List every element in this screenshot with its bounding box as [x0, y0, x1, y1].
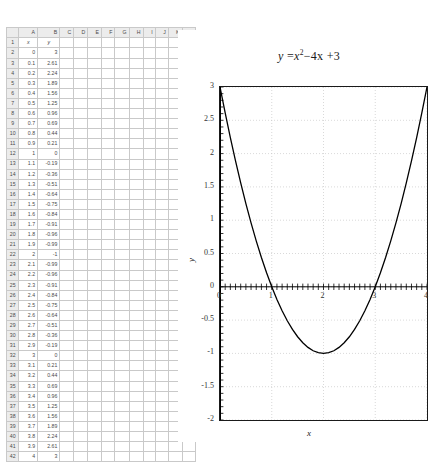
cell-empty[interactable]: [60, 220, 74, 230]
cell-empty[interactable]: [155, 38, 168, 48]
cell-empty[interactable]: [101, 300, 115, 310]
cell-empty[interactable]: [143, 341, 155, 351]
cell-empty[interactable]: [74, 250, 88, 260]
cell-empty[interactable]: [129, 209, 143, 219]
cell-empty[interactable]: [155, 371, 168, 381]
cell-x-41[interactable]: 3.9: [19, 442, 38, 452]
cell-x-39[interactable]: 3.7: [19, 421, 38, 431]
cell-empty[interactable]: [129, 290, 143, 300]
row-header-26[interactable]: 26: [7, 290, 19, 300]
cell-empty[interactable]: [60, 169, 74, 179]
cell-empty[interactable]: [155, 230, 168, 240]
cell-empty[interactable]: [60, 48, 74, 58]
cell-empty[interactable]: [155, 421, 168, 431]
cell-empty[interactable]: [60, 189, 74, 199]
cell-y-13[interactable]: -0.19: [38, 159, 60, 169]
cell-empty[interactable]: [60, 442, 74, 452]
cell-y-23[interactable]: -0.99: [38, 260, 60, 270]
cell-y-31[interactable]: -0.19: [38, 341, 60, 351]
cell-empty[interactable]: [101, 139, 115, 149]
row-header-29[interactable]: 29: [7, 321, 19, 331]
cell-empty[interactable]: [88, 452, 102, 462]
table-row[interactable]: 383.61.56: [7, 411, 196, 421]
table-row[interactable]: 252.3-0.91: [7, 280, 196, 290]
cell-x-24[interactable]: 2.2: [19, 270, 38, 280]
table-row[interactable]: 222-1: [7, 250, 196, 260]
cell-empty[interactable]: [115, 432, 129, 442]
cell-empty[interactable]: [74, 421, 88, 431]
cell-empty[interactable]: [155, 300, 168, 310]
table-row[interactable]: 161.4-0.64: [7, 189, 196, 199]
cell-empty[interactable]: [143, 391, 155, 401]
cell-empty[interactable]: [101, 442, 115, 452]
cell-empty[interactable]: [101, 240, 115, 250]
cell-empty[interactable]: [74, 88, 88, 98]
cell-empty[interactable]: [143, 149, 155, 159]
table-row[interactable]: 393.71.89: [7, 421, 196, 431]
cell-empty[interactable]: [115, 240, 129, 250]
cell-empty[interactable]: [155, 68, 168, 78]
cell-empty[interactable]: [60, 109, 74, 119]
cell-y-18[interactable]: -0.84: [38, 209, 60, 219]
cell-empty[interactable]: [101, 310, 115, 320]
cell-empty[interactable]: [60, 321, 74, 331]
cell-x-13[interactable]: 1.1: [19, 159, 38, 169]
cell-y-10[interactable]: 0.44: [38, 129, 60, 139]
row-header-22[interactable]: 22: [7, 250, 19, 260]
cell-empty[interactable]: [115, 321, 129, 331]
cell-x-21[interactable]: 1.9: [19, 240, 38, 250]
cell-empty[interactable]: [60, 149, 74, 159]
cell-y-39[interactable]: 1.89: [38, 421, 60, 431]
cell-empty[interactable]: [74, 48, 88, 58]
table-row[interactable]: 110.90.21: [7, 139, 196, 149]
cell-empty[interactable]: [60, 391, 74, 401]
cell-empty[interactable]: [143, 300, 155, 310]
cell-empty[interactable]: [115, 209, 129, 219]
row-header-4[interactable]: 4: [7, 68, 19, 78]
cell-x-3[interactable]: 0.1: [19, 58, 38, 68]
cell-empty[interactable]: [143, 361, 155, 371]
cell-x-16[interactable]: 1.4: [19, 189, 38, 199]
cell-empty[interactable]: [155, 199, 168, 209]
cell-empty[interactable]: [143, 139, 155, 149]
cell-empty[interactable]: [155, 321, 168, 331]
cell-empty[interactable]: [115, 58, 129, 68]
cell-empty[interactable]: [143, 381, 155, 391]
cell-y-30[interactable]: -0.36: [38, 331, 60, 341]
cell-x-9[interactable]: 0.7: [19, 119, 38, 129]
row-header-6[interactable]: 6: [7, 88, 19, 98]
cell-empty[interactable]: [115, 421, 129, 431]
cell-empty[interactable]: [129, 159, 143, 169]
cell-empty[interactable]: [101, 280, 115, 290]
cell-empty[interactable]: [101, 411, 115, 421]
cell-x-26[interactable]: 2.4: [19, 290, 38, 300]
table-row[interactable]: 333.10.21: [7, 361, 196, 371]
cell-x-6[interactable]: 0.4: [19, 88, 38, 98]
cell-empty[interactable]: [74, 331, 88, 341]
cell-empty[interactable]: [101, 361, 115, 371]
cell-empty[interactable]: [101, 401, 115, 411]
cell-empty[interactable]: [88, 351, 102, 361]
table-row[interactable]: 40.22.24: [7, 68, 196, 78]
row-header-3[interactable]: 3: [7, 58, 19, 68]
cell-empty[interactable]: [129, 58, 143, 68]
cell-empty[interactable]: [129, 139, 143, 149]
cell-empty[interactable]: [88, 119, 102, 129]
cell-empty[interactable]: [88, 411, 102, 421]
cell-empty[interactable]: [74, 209, 88, 219]
cell-empty[interactable]: [88, 331, 102, 341]
row-header-14[interactable]: 14: [7, 169, 19, 179]
cell-empty[interactable]: [115, 38, 129, 48]
cell-x-4[interactable]: 0.2: [19, 68, 38, 78]
cell-empty[interactable]: [155, 98, 168, 108]
cell-y-16[interactable]: -0.64: [38, 189, 60, 199]
cell-y-35[interactable]: 0.69: [38, 381, 60, 391]
cell-empty[interactable]: [143, 421, 155, 431]
cell-x-42[interactable]: 4: [19, 452, 38, 462]
cell-empty[interactable]: [143, 240, 155, 250]
row-header-23[interactable]: 23: [7, 260, 19, 270]
cell-x-15[interactable]: 1.3: [19, 179, 38, 189]
cell-empty[interactable]: [155, 220, 168, 230]
cell-empty[interactable]: [101, 149, 115, 159]
cell-y-34[interactable]: 0.44: [38, 371, 60, 381]
